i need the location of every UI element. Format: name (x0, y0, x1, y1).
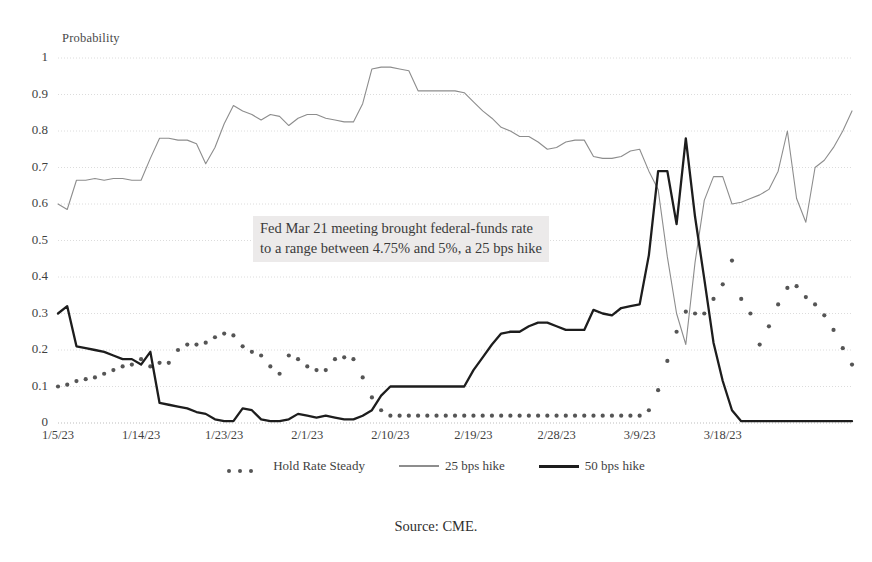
chart-legend: Hold Rate Steady 25 bps hike 50 bps hike (0, 458, 872, 474)
legend-swatch-dotted-icon (227, 462, 267, 470)
y-tick-label: 0.4 (8, 268, 48, 284)
y-tick-label: 1 (8, 49, 48, 65)
legend-label: 50 bps hike (585, 458, 645, 474)
x-tick-label: 2/10/23 (345, 428, 435, 443)
y-tick-label: 0.7 (8, 159, 48, 175)
plot-canvas (0, 0, 872, 562)
x-tick-label: 2/28/23 (512, 428, 602, 443)
y-tick-label: 0.3 (8, 305, 48, 321)
y-tick-label: 0.5 (8, 232, 48, 248)
x-tick-label: 1/23/23 (179, 428, 269, 443)
annotation-callout: Fed Mar 21 meeting brought federal-funds… (253, 216, 549, 262)
source-note: Source: CME. (0, 518, 872, 535)
legend-label: 25 bps hike (445, 458, 505, 474)
legend-item-hold-rate-steady[interactable]: Hold Rate Steady (227, 458, 365, 474)
x-tick-label: 2/19/23 (428, 428, 518, 443)
y-tick-label: 0.9 (8, 86, 48, 102)
legend-swatch-thick-line-icon (539, 465, 579, 468)
chart-figure: Probability 10.90.80.70.60.50.40.30.20.1… (0, 0, 872, 562)
y-tick-label: 0.1 (8, 378, 48, 394)
x-tick-label: 1/5/23 (13, 428, 103, 443)
x-tick-label: 3/18/23 (678, 428, 768, 443)
x-tick-label: 2/1/23 (262, 428, 352, 443)
y-tick-label: 0.2 (8, 341, 48, 357)
legend-item-25-bps-hike[interactable]: 25 bps hike (399, 458, 505, 474)
legend-label: Hold Rate Steady (273, 458, 365, 474)
legend-item-50-bps-hike[interactable]: 50 bps hike (539, 458, 645, 474)
y-tick-label: 0.6 (8, 195, 48, 211)
y-tick-label: 0.8 (8, 122, 48, 138)
legend-swatch-thin-line-icon (399, 465, 439, 467)
x-tick-label: 1/14/23 (96, 428, 186, 443)
x-tick-label: 3/9/23 (595, 428, 685, 443)
